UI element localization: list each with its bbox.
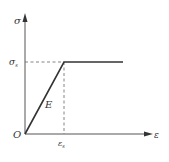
stress-strain-diagram: σ σs E O εs ε xyxy=(0,0,169,162)
y-axis-label: σ xyxy=(14,15,22,26)
x-axis-label: ε xyxy=(154,130,159,140)
yield-stress-label: σs xyxy=(9,57,18,68)
stress-strain-curve xyxy=(25,62,123,134)
modulus-label: E xyxy=(44,99,53,110)
origin-label: O xyxy=(13,129,21,140)
y-axis-arrow-icon xyxy=(23,13,28,22)
yield-strain-label: εs xyxy=(58,139,65,149)
x-axis-arrow-icon xyxy=(144,132,153,137)
